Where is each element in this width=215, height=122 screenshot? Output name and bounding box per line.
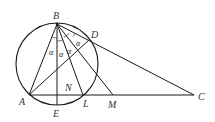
point-b-dot	[56, 23, 59, 26]
segment-ba	[29, 24, 57, 95]
label-c: C	[198, 91, 205, 102]
angle-label-3: α	[67, 47, 72, 56]
label-n: N	[64, 82, 73, 93]
segment-bc	[57, 24, 194, 95]
label-l: L	[82, 98, 89, 109]
label-b: B	[53, 10, 59, 21]
angle-label-4: α	[76, 39, 81, 48]
angle-arc-4	[73, 34, 75, 37]
label-m: M	[107, 99, 117, 110]
angle-arc-1	[52, 37, 57, 38]
angle-label-1: α	[49, 48, 54, 57]
label-d: D	[90, 29, 99, 40]
label-a: A	[18, 96, 26, 107]
geometry-diagram: α α α α B D A E N L M C	[0, 0, 215, 122]
angle-arc-2	[57, 40, 63, 41]
angle-label-2: α	[59, 50, 64, 59]
label-e: E	[52, 108, 59, 119]
